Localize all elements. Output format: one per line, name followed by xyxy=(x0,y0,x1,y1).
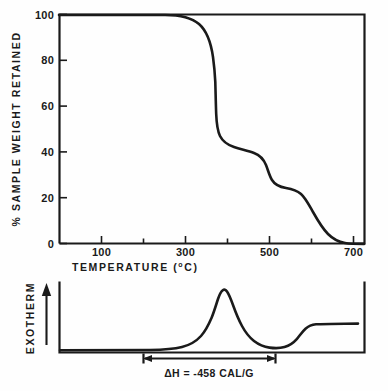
thermal-analysis-figure: 100 80 60 40 20 0 % SAMPLE WEIGHT RETAIN… xyxy=(0,0,388,391)
tga-y-ticks xyxy=(60,15,68,244)
tga-y-tick-label-100: 100 xyxy=(35,9,54,21)
tga-x-tick-label-100: 100 xyxy=(92,246,111,258)
dsc-heat-flow-curve xyxy=(60,290,358,351)
tga-x-axis-title-tail: C) xyxy=(184,261,198,273)
tga-panel: 100 80 60 40 20 0 % SAMPLE WEIGHT RETAIN… xyxy=(10,9,365,274)
tga-x-tick-label-700: 700 xyxy=(344,246,363,258)
tga-x-ticks xyxy=(102,236,354,244)
svg-text:TEMPERATURE (oC): TEMPERATURE (oC) xyxy=(72,261,199,273)
enthalpy-span-arrow xyxy=(143,354,276,364)
tga-x-tick-label-500: 500 xyxy=(260,246,279,258)
tga-y-tick-label-20: 20 xyxy=(41,192,54,204)
enthalpy-value-label: ΔH = -458 CAL/G xyxy=(164,367,254,379)
dsc-y-axis-title: EXOTHERM xyxy=(24,282,36,354)
tga-y-tick-label-60: 60 xyxy=(41,100,54,112)
tga-x-tick-label-300: 300 xyxy=(176,246,195,258)
figure-container: 100 80 60 40 20 0 % SAMPLE WEIGHT RETAIN… xyxy=(0,0,388,391)
tga-y-tick-label-40: 40 xyxy=(41,146,54,158)
exotherm-arrow-icon xyxy=(42,283,51,345)
tga-y-axis-title: % SAMPLE WEIGHT RETAINED xyxy=(10,31,22,226)
dsc-panel: EXOTHERM ΔH = -458 CAL/G xyxy=(24,282,365,380)
tga-x-axis-title-main: TEMPERATURE ( xyxy=(72,261,178,273)
tga-x-axis-title: TEMPERATURE (oC) xyxy=(72,261,199,273)
tga-weight-loss-curve xyxy=(59,15,364,244)
tga-y-tick-label-80: 80 xyxy=(41,54,54,66)
tga-y-tick-label-0: 0 xyxy=(48,238,54,250)
